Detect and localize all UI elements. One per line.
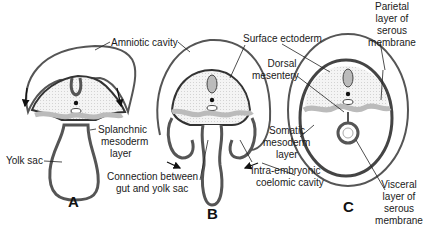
label-visceral-4: membrane: [372, 215, 423, 226]
label-yolk-sac: Yolk sac: [6, 155, 43, 166]
label-dorsal-mesentery-2: mesentery: [252, 70, 299, 81]
diagram-artwork: [0, 0, 423, 227]
label-parietal-1: Parietal: [368, 1, 416, 12]
panel-c-embryo: [288, 34, 408, 186]
label-somatic-2: mesoderm: [263, 137, 310, 148]
panel-letter-a: A: [68, 193, 79, 210]
embryo-folding-diagram: Amniotic cavity Surface ectoderm Dorsal …: [0, 0, 423, 227]
panel-letter-b: B: [207, 205, 218, 222]
label-intra-embryonic-2: coelomic cavity: [256, 177, 324, 188]
label-splanchnic-1: Splanchnic: [98, 124, 147, 135]
label-connection-2: gut and yolk sac: [116, 183, 188, 194]
label-visceral-3: serous: [375, 203, 423, 214]
label-parietal-2: layer of: [368, 13, 416, 24]
label-parietal-4: membrane: [365, 37, 419, 48]
label-amniotic-cavity: Amniotic cavity: [111, 37, 178, 48]
label-parietal-3: serous: [368, 25, 416, 36]
label-somatic-3: layer: [276, 149, 298, 160]
label-splanchnic-3: layer: [110, 148, 132, 159]
label-somatic-1: Somatic: [269, 125, 305, 136]
label-visceral-2: layer of: [375, 191, 423, 202]
panel-letter-c: C: [343, 198, 354, 215]
label-surface-ectoderm: Surface ectoderm: [243, 33, 322, 44]
label-intra-embryonic-1: Intra-embryonic: [251, 165, 320, 176]
label-splanchnic-2: mesoderm: [101, 136, 148, 147]
label-connection-1: Connection between: [107, 171, 198, 182]
label-visceral-1: Visceral: [375, 179, 423, 190]
label-dorsal-mesentery-1: Dorsal: [262, 58, 302, 69]
